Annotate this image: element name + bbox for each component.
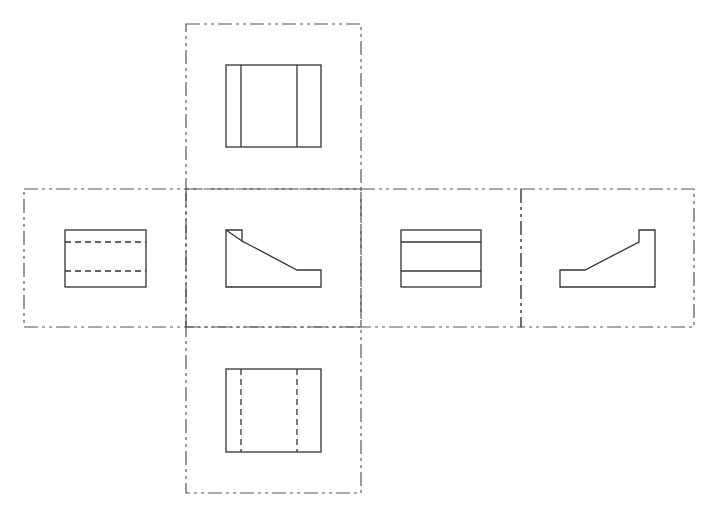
part-outline-bottom	[226, 369, 321, 452]
visible-edge-line	[226, 230, 242, 241]
view-left: Left side view	[24, 189, 186, 327]
view-bottom: Bottom view	[186, 327, 361, 493]
part-profile-rear	[560, 230, 655, 287]
orthographic-drawing: Top viewLeft side viewFront viewRight si…	[0, 0, 722, 514]
part-outline-right	[401, 230, 481, 287]
part-profile-front	[226, 230, 321, 287]
part-outline-left	[65, 230, 146, 287]
view-right: Right side view	[361, 189, 521, 327]
part-outline-top	[226, 65, 321, 147]
view-frame-right	[361, 189, 521, 327]
view-frame-top	[186, 24, 361, 189]
view-front: Front view	[186, 189, 361, 327]
view-rear: Rear view	[521, 189, 694, 327]
view-frame-left	[24, 189, 186, 327]
view-frame-bottom	[186, 327, 361, 493]
view-top: Top view	[186, 24, 361, 189]
views-layer: Top viewLeft side viewFront viewRight si…	[24, 24, 694, 493]
